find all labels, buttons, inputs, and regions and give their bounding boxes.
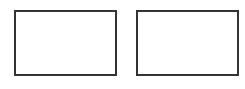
left-rectangle xyxy=(14,10,117,76)
right-rectangle xyxy=(136,10,239,76)
